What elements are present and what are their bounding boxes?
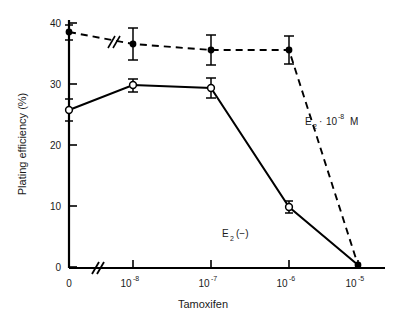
data-point-dashed-2: [208, 47, 215, 54]
y-tick-labels: 40 30 20 10 0: [50, 18, 62, 273]
series-label-solid-paren: (−): [236, 228, 249, 239]
x-tick-label-1e-6-base: 10: [276, 278, 288, 289]
x-tick-label-1e-7-exp: -7: [211, 275, 217, 282]
y-axis-title: Plating efficiency (%): [16, 93, 28, 196]
x-tick-label-1e-8-base: 10: [120, 278, 132, 289]
x-ticks: [133, 260, 358, 268]
series-dashed-e2-10e8m: [65, 25, 361, 268]
series-label-dashed-sub2: 2: [313, 123, 317, 130]
series-label-dashed-ten: 10: [326, 116, 338, 127]
series-label-dashed-e: E: [305, 116, 312, 127]
y-tick-label-0: 0: [55, 262, 61, 273]
series-label-dashed: E 2 · 10 -8 M: [305, 113, 358, 130]
x-tick-label-1e-5: 10 -5: [345, 275, 364, 289]
x-tick-labels: 0 10 -8 10 -7 10 -6 10 -5: [66, 275, 364, 289]
series-dashed-line: [69, 32, 358, 265]
data-point-solid-2: [208, 85, 215, 92]
data-point-dashed-3: [286, 47, 293, 54]
x-tick-label-1e-6: 10 -6: [276, 275, 295, 289]
y-tick-label-30: 30: [50, 79, 62, 90]
x-tick-label-1e-7-base: 10: [198, 278, 210, 289]
series-solid-e2-minus: [65, 78, 358, 265]
series-label-dashed-exp: -8: [338, 113, 344, 120]
series-label-solid-e: E: [222, 228, 229, 239]
x-tick-label-0: 0: [66, 278, 72, 289]
x-tick-label-1e-8: 10 -8: [120, 275, 139, 289]
x-tick-label-1e-5-base: 10: [345, 278, 357, 289]
y-ticks: [69, 23, 77, 267]
data-point-dashed-0: [66, 29, 73, 36]
x-tick-label-1e-8-exp: -8: [133, 275, 139, 282]
y-tick-label-20: 20: [50, 140, 62, 151]
series-dashed-errorbars: [65, 25, 294, 65]
series-label-dashed-middot: ·: [319, 116, 322, 127]
x-tick-label-1e-7: 10 -7: [198, 275, 217, 289]
data-point-solid-0: [66, 107, 73, 114]
data-point-solid-3: [286, 204, 293, 211]
x-tick-label-1e-6-exp: -6: [289, 275, 295, 282]
series-label-solid-sub2: 2: [230, 235, 234, 242]
data-point-solid-1: [130, 82, 137, 89]
y-tick-label-40: 40: [50, 18, 62, 29]
series-solid-line: [69, 85, 358, 265]
series-label-dashed-molar: M: [350, 116, 358, 127]
data-point-dashed-1: [130, 41, 137, 48]
x-tick-label-1e-5-exp: -5: [358, 275, 364, 282]
x-axis-title: Tamoxifen: [178, 298, 228, 310]
series-label-solid: E 2 (−): [222, 228, 249, 242]
plating-efficiency-chart: 40 30 20 10 0 0 10 -8: [0, 0, 399, 313]
y-tick-label-10: 10: [50, 201, 62, 212]
chart-figure: 40 30 20 10 0 0 10 -8: [0, 0, 399, 313]
series-solid-markers: [66, 82, 293, 211]
axis-break-marks: [92, 36, 122, 274]
